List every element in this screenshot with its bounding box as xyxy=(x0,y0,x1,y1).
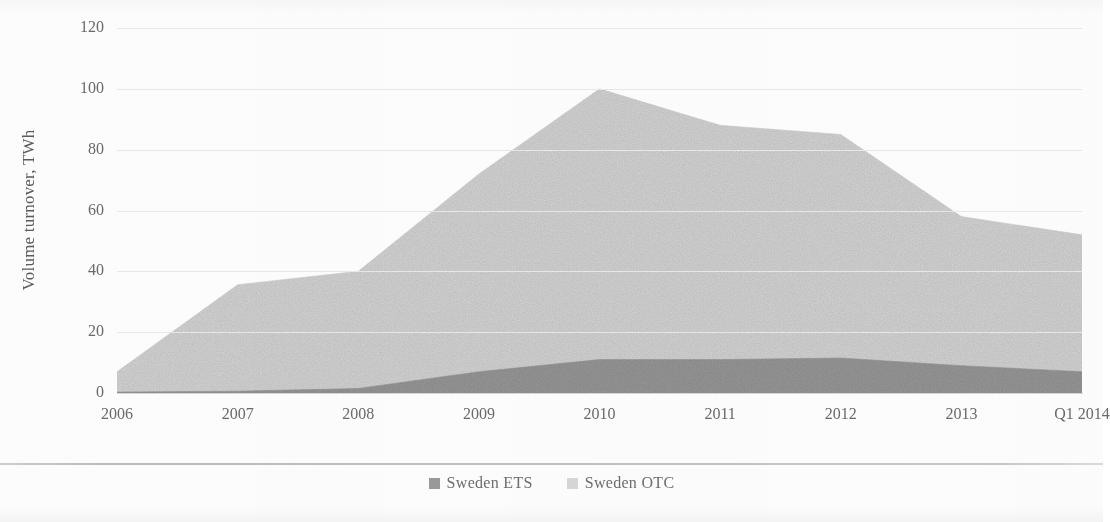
gridline xyxy=(117,271,1082,272)
legend-item[interactable]: Sweden ETS xyxy=(429,474,533,492)
area-series-sweden-otc xyxy=(117,89,1082,393)
x-tick-label: 2009 xyxy=(463,405,495,423)
x-axis-ticks: 20062007200820092010201120122013Q1 2014 xyxy=(117,405,1082,435)
x-tick-label: 2007 xyxy=(222,405,254,423)
x-tick-label: 2011 xyxy=(704,405,735,423)
x-tick-label: Q1 2014 xyxy=(1054,405,1110,423)
y-tick-label: 20 xyxy=(62,322,104,340)
y-axis-title-label: Volume turnover, TWh xyxy=(19,130,39,291)
x-axis-baseline xyxy=(117,393,1083,394)
gridline xyxy=(117,332,1082,333)
page-bottom-rule xyxy=(0,463,1103,465)
x-tick-label: 2013 xyxy=(945,405,977,423)
x-tick-label: 2006 xyxy=(101,405,133,423)
y-axis-title: Volume turnover, TWh xyxy=(12,50,46,370)
legend-item-label: Sweden ETS xyxy=(447,474,533,492)
y-axis-ticks: 020406080100120 xyxy=(56,28,104,393)
gridline xyxy=(117,89,1082,90)
y-tick-label: 40 xyxy=(62,261,104,279)
chart-legend: Sweden ETSSweden OTC xyxy=(0,474,1103,492)
y-tick-label: 120 xyxy=(62,18,104,36)
gridline xyxy=(117,211,1082,212)
legend-item-label: Sweden OTC xyxy=(585,474,675,492)
y-tick-label: 60 xyxy=(62,201,104,219)
x-tick-label: 2012 xyxy=(825,405,857,423)
y-tick-label: 0 xyxy=(62,383,104,401)
plot-area xyxy=(117,28,1082,393)
gridline xyxy=(117,28,1082,29)
x-tick-label: 2008 xyxy=(342,405,374,423)
y-tick-label: 100 xyxy=(62,79,104,97)
legend-item[interactable]: Sweden OTC xyxy=(567,474,675,492)
gridline xyxy=(117,150,1082,151)
x-tick-label: 2010 xyxy=(584,405,616,423)
legend-swatch-icon xyxy=(567,478,578,489)
legend-swatch-icon xyxy=(429,478,440,489)
y-tick-label: 80 xyxy=(62,140,104,158)
